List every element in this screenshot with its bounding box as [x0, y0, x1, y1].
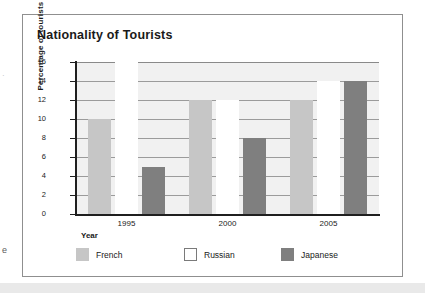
x-axis-label: Year	[81, 231, 98, 240]
x-tick-label: 2000	[198, 219, 258, 228]
y-tick-label: 14	[6, 76, 46, 85]
y-tick-mark	[70, 195, 75, 196]
bar-russian-2005	[317, 81, 340, 214]
y-tick-mark	[70, 62, 75, 63]
legend-swatch-japanese-icon	[281, 248, 294, 261]
bar-japanese-1995	[142, 167, 165, 215]
legend-label: French	[96, 250, 122, 260]
legend-label: Russian	[204, 250, 235, 260]
y-tick-label: 8	[6, 133, 46, 142]
bar-french-1995	[88, 119, 111, 214]
y-tick-mark	[70, 214, 75, 215]
bar-japanese-2005	[344, 81, 367, 214]
y-tick-label: 10	[6, 114, 46, 123]
chart-plot-wrapper: Percentage of tourists 1614121086420 199…	[23, 15, 404, 278]
legend-item-japanese[interactable]: Japanese	[281, 248, 338, 261]
y-axis-label: Percentage of tourists	[36, 0, 45, 101]
margin-fragment-bottom: e	[2, 246, 7, 254]
y-tick-mark	[70, 119, 75, 120]
bar-layer	[76, 62, 379, 214]
bar-russian-2000	[216, 100, 239, 214]
y-tick-label: 2	[6, 190, 46, 199]
y-tick-mark	[70, 176, 75, 177]
chart-card: Nationality of Tourists Percentage of to…	[22, 14, 403, 277]
y-tick-mark	[70, 157, 75, 158]
bar-french-2000	[189, 100, 212, 214]
legend-label: Japanese	[301, 250, 338, 260]
y-tick-mark	[70, 81, 75, 82]
x-tick-label: 2005	[299, 219, 359, 228]
legend-swatch-french-icon	[76, 248, 89, 261]
bar-russian-1995	[115, 62, 138, 214]
y-tick-label: 6	[6, 152, 46, 161]
y-tick-label: 12	[6, 95, 46, 104]
page-bottom-strip	[0, 283, 425, 293]
y-tick-label: 4	[6, 171, 46, 180]
page-left-margin: · e	[0, 0, 22, 293]
bar-french-2005	[290, 100, 313, 214]
y-tick-mark	[70, 100, 75, 101]
margin-fragment-top: ·	[2, 72, 5, 80]
y-tick-label: 16	[6, 57, 46, 66]
legend-swatch-russian-icon	[184, 248, 197, 261]
legend-item-french[interactable]: French	[76, 248, 122, 261]
legend-item-russian[interactable]: Russian	[184, 248, 235, 261]
chart-legend: FrenchRussianJapanese	[76, 248, 376, 266]
bar-japanese-2000	[243, 138, 266, 214]
y-tick-mark	[70, 138, 75, 139]
x-tick-label: 1995	[97, 219, 157, 228]
x-axis-line	[75, 214, 380, 216]
y-tick-label: 0	[6, 209, 46, 218]
